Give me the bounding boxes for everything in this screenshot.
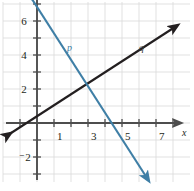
x-tick-label-3: 3 xyxy=(91,130,97,142)
y-tick-label-negative-2: ⁻2 xyxy=(19,151,31,163)
line-p-label: p xyxy=(66,42,72,53)
x-axis-label: x xyxy=(181,127,187,138)
x-tick-label-7: 7 xyxy=(159,130,165,142)
line-q-label: q xyxy=(139,42,144,53)
coordinate-graph-figure: 1 3 5 7 6 4 2 ⁻2 x p q xyxy=(0,0,194,191)
line-q xyxy=(8,27,175,135)
x-tick-label-5: 5 xyxy=(125,130,131,142)
y-tick-label-6: 6 xyxy=(21,15,27,27)
y-tick-label-4: 4 xyxy=(21,49,27,61)
grid-lines xyxy=(3,2,190,182)
coordinate-plane-svg: 1 3 5 7 6 4 2 ⁻2 x p q xyxy=(0,0,194,191)
axis-lines xyxy=(6,0,178,180)
x-tick-label-1: 1 xyxy=(57,130,63,142)
y-tick-label-2: 2 xyxy=(21,83,27,95)
